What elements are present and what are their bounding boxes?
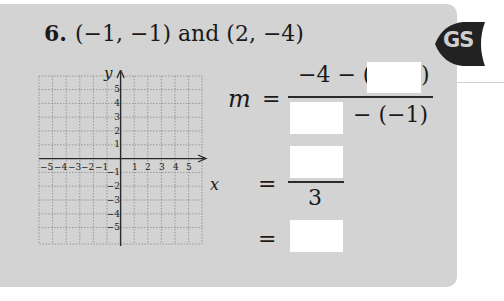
x-tick: −4: [54, 162, 67, 172]
x-tick: 1: [132, 162, 138, 172]
y-tick: −3: [107, 195, 120, 205]
y-tick: 5: [114, 84, 120, 94]
numerator-suffix: ): [421, 62, 430, 87]
x-tick: 4: [173, 162, 179, 172]
x-tick: 5: [186, 162, 192, 172]
y-tick: −5: [107, 222, 120, 232]
y-tick: −2: [107, 181, 120, 191]
y-tick-labels: 5 4 3 2 1 −1 −2 −3 −4 −5: [106, 70, 120, 250]
x-tick: −2: [81, 162, 94, 172]
x-axis-label: x: [210, 175, 219, 194]
y-tick: −1: [107, 167, 120, 177]
x-tick: −3: [68, 162, 81, 172]
slope-variable: m: [228, 85, 251, 113]
equals-sign-3: =: [258, 226, 276, 251]
y-tick: −4: [107, 209, 120, 219]
x-tick: 2: [145, 162, 151, 172]
x-tick-labels: −5 −4 −3 −2 −1 1 2 3 4 5: [38, 162, 208, 174]
divider: [457, 82, 504, 83]
equals-sign-2: =: [258, 171, 276, 196]
y-tick: 3: [114, 112, 120, 122]
coordinate-grid: [38, 70, 208, 250]
gs-badge-label: GS: [443, 28, 473, 52]
denominator-suffix: − (−1): [353, 102, 428, 127]
x-tick: 3: [159, 162, 165, 172]
denominator-value: 3: [308, 185, 322, 210]
fraction-bar-1: [288, 96, 433, 98]
y1-input-box[interactable]: [367, 62, 421, 93]
numerator-prefix: −4 − (: [298, 62, 371, 87]
x2-input-box[interactable]: [290, 102, 343, 134]
y-tick: 4: [114, 98, 120, 108]
equals-sign-1: =: [262, 86, 280, 111]
problem-points: (−1, −1) and (2, −4): [75, 21, 304, 46]
problem-number: 6.: [44, 20, 67, 46]
x-tick: −5: [40, 162, 53, 172]
problem-statement: 6.(−1, −1) and (2, −4): [44, 20, 304, 46]
y-tick: 2: [114, 126, 120, 136]
final-slope-box[interactable]: [290, 220, 343, 252]
numerator-result-box[interactable]: [290, 146, 343, 178]
fraction-bar-2: [288, 181, 344, 183]
y-tick: 1: [114, 139, 120, 149]
